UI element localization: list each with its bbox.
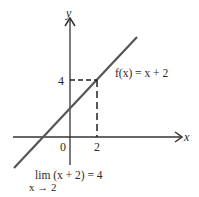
origin-label: 0	[60, 140, 66, 154]
y-tick-label: 4	[58, 74, 64, 88]
function-label: f(x) = x + 2	[115, 67, 168, 80]
function-line	[14, 37, 137, 168]
x-axis-label: x	[183, 130, 190, 144]
limit-subscript: x → 2	[29, 181, 57, 193]
y-axis-label: y	[65, 6, 72, 20]
limit-diagram: y x 4 0 2 f(x) = x + 2 lim (x + 2) = 4 x…	[0, 0, 199, 197]
x-tick-label: 2	[94, 140, 100, 154]
